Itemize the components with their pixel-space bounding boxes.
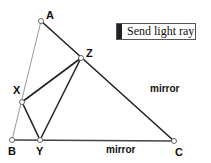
point-z-handle[interactable] [79, 56, 84, 61]
label-b: B [8, 146, 16, 157]
point-x-handle[interactable] [20, 100, 25, 105]
mirror-bc [12, 140, 174, 141]
label-z: Z [86, 48, 93, 59]
label-y: Y [36, 146, 43, 157]
ray-zy [40, 58, 81, 140]
send-light-ray-label: Send light ray [122, 24, 194, 39]
mirror-label-bc: mirror [106, 145, 135, 155]
label-c: C [175, 147, 183, 158]
point-a-handle[interactable] [39, 19, 44, 24]
send-light-ray-button[interactable]: Send light ray [116, 23, 196, 40]
label-a: A [46, 10, 54, 21]
side-ab [12, 21, 41, 140]
label-x: X [13, 85, 20, 96]
triangle-diagram: A Z X B Y C mirror mirror Send light ray [0, 0, 211, 163]
point-b-handle[interactable] [10, 138, 15, 143]
ray-yx [22, 102, 40, 140]
point-y-handle[interactable] [38, 138, 43, 143]
mirror-label-ac: mirror [150, 84, 179, 94]
point-c-handle[interactable] [172, 139, 177, 144]
